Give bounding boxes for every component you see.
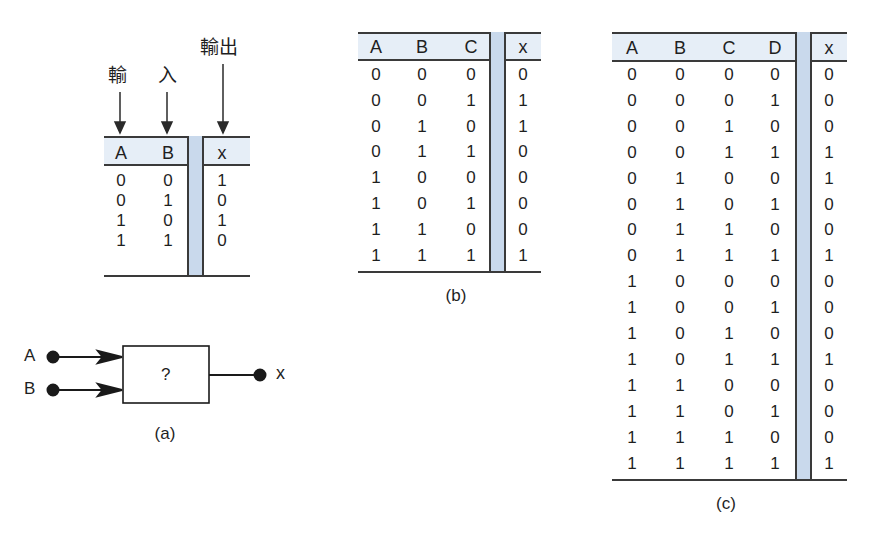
input-b-label: B	[24, 379, 35, 399]
header-a: A	[106, 143, 136, 163]
cell: 0	[714, 169, 744, 189]
cell: 1	[456, 91, 486, 111]
output-x-label: x	[276, 363, 285, 384]
cell: 1	[361, 168, 391, 188]
cell: 0	[760, 65, 790, 85]
cell: 0	[617, 169, 647, 189]
cell: 1	[617, 298, 647, 318]
cell: 0	[665, 324, 695, 344]
cell: 0	[714, 298, 744, 318]
cell: 1	[456, 194, 486, 214]
cell: 1	[760, 454, 790, 474]
cell: 1	[508, 91, 538, 111]
cell: 0	[407, 91, 437, 111]
cell: 1	[760, 402, 790, 422]
cell: 1	[456, 142, 486, 162]
cell: 1	[617, 376, 647, 396]
cell: 0	[407, 168, 437, 188]
cell: 0	[407, 65, 437, 85]
cell: 0	[617, 65, 647, 85]
cell: 1	[617, 272, 647, 292]
cell: 1	[714, 220, 744, 240]
header-x: x	[508, 37, 538, 57]
cell: 0	[617, 246, 647, 266]
output-terminal-icon	[255, 370, 266, 381]
cell: 1	[407, 117, 437, 137]
cell: 1	[760, 298, 790, 318]
cell: 0	[617, 91, 647, 111]
truth-table-a: A B x 0 0 1 0 1 0 1 0 1 1 1 0	[104, 136, 250, 278]
cell: 0	[617, 220, 647, 240]
cell: 1	[361, 246, 391, 266]
cell: 1	[714, 246, 744, 266]
cell: 0	[760, 324, 790, 344]
block-diagram	[0, 330, 310, 420]
cell: 0	[814, 298, 844, 318]
cell: 0	[106, 171, 136, 191]
input-a-label: A	[24, 346, 35, 366]
header-c: C	[456, 37, 486, 57]
cell: 1	[207, 211, 237, 231]
cell: 0	[617, 143, 647, 163]
cell: 0	[456, 220, 486, 240]
cell: 0	[760, 428, 790, 448]
truth-table-b: A B C x 00000011010101101000101011001111	[358, 32, 541, 274]
cell: 0	[814, 220, 844, 240]
cell: 1	[665, 376, 695, 396]
cell: 0	[407, 194, 437, 214]
cell: 0	[456, 117, 486, 137]
cell: 0	[665, 91, 695, 111]
cell: 0	[814, 376, 844, 396]
cell: 0	[714, 195, 744, 215]
cell: 0	[665, 272, 695, 292]
cell: 0	[508, 220, 538, 240]
caption-a: (a)	[145, 424, 185, 444]
cell: 1	[714, 324, 744, 344]
header-x: x	[814, 38, 844, 58]
caption-c: (c)	[706, 494, 746, 514]
cell: 0	[508, 168, 538, 188]
cell: 1	[760, 91, 790, 111]
cell: 0	[714, 376, 744, 396]
cell: 1	[617, 454, 647, 474]
cell: 0	[361, 65, 391, 85]
cell: 0	[665, 65, 695, 85]
cell: 0	[814, 272, 844, 292]
cell: 0	[814, 324, 844, 344]
cell: 1	[814, 246, 844, 266]
cell: 0	[508, 142, 538, 162]
cell: 0	[714, 91, 744, 111]
cell: 1	[760, 246, 790, 266]
cell: 1	[407, 142, 437, 162]
cell: 1	[814, 169, 844, 189]
cell: 0	[361, 142, 391, 162]
cell: 0	[665, 117, 695, 137]
cell: 1	[361, 194, 391, 214]
cell: 1	[665, 246, 695, 266]
header-a: A	[361, 37, 391, 57]
cell: 1	[407, 246, 437, 266]
cell: 1	[714, 117, 744, 137]
cell: 1	[760, 350, 790, 370]
cell: 1	[760, 195, 790, 215]
cell: 0	[207, 231, 237, 251]
cell: 0	[361, 117, 391, 137]
cell: 0	[153, 171, 183, 191]
cell: 0	[508, 65, 538, 85]
cell: 0	[814, 91, 844, 111]
cell: 1	[814, 350, 844, 370]
cell: 1	[665, 195, 695, 215]
cell: 1	[106, 231, 136, 251]
header-b: B	[153, 143, 183, 163]
cell: 0	[760, 376, 790, 396]
cell: 1	[814, 454, 844, 474]
cell: 1	[407, 220, 437, 240]
cell: 1	[665, 220, 695, 240]
cell: 0	[508, 194, 538, 214]
cell: 0	[814, 117, 844, 137]
cell: 1	[665, 169, 695, 189]
header-x: x	[207, 143, 237, 163]
block-label: ?	[161, 365, 170, 385]
cell: 0	[665, 143, 695, 163]
cell: 0	[456, 65, 486, 85]
